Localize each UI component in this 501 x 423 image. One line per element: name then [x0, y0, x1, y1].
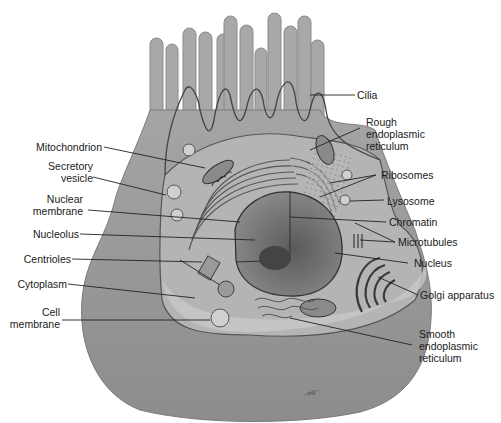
label-chromatin: Chromatin	[389, 216, 437, 228]
cell-diagram: ~sig~ Mitochondrion Secretory vesicle Nu…	[0, 0, 501, 423]
label-microtubules: Microtubules	[398, 236, 458, 248]
label-text: Golgi apparatus	[420, 289, 494, 301]
label-text: Mitochondrion	[36, 141, 102, 153]
nucleolus	[259, 246, 291, 270]
label-text: Ribosomes	[381, 169, 434, 181]
label-cell-membrane: Cell membrane	[10, 306, 60, 330]
label-text: Cytoplasm	[17, 278, 67, 290]
label-text: Nucleolus	[33, 228, 79, 240]
label-text: Secretory	[48, 160, 93, 172]
label-smooth-er: Smooth endoplasmic reticulum	[419, 328, 478, 364]
label-text: Cilia	[357, 89, 377, 101]
label-mitochondrion: Mitochondrion	[36, 141, 102, 153]
label-text: Lysosome	[387, 195, 434, 207]
label-rough-er: Rough endoplasmic reticulum	[366, 116, 425, 152]
label-text: vesicle	[48, 172, 93, 184]
label-text: reticulum	[366, 140, 425, 152]
label-text: Nuclear	[33, 193, 83, 205]
label-text: Cell	[10, 306, 60, 318]
label-centrioles: Centrioles	[24, 253, 71, 265]
label-nucleus: Nucleus	[414, 257, 452, 269]
label-cytoplasm: Cytoplasm	[17, 278, 67, 290]
label-cilia: Cilia	[357, 89, 377, 101]
label-text: Smooth	[419, 328, 478, 340]
label-text: endoplasmic	[419, 340, 478, 352]
label-nuclear-membrane: Nuclear membrane	[33, 193, 83, 217]
label-text: reticulum	[419, 352, 478, 364]
label-text: Rough	[366, 116, 425, 128]
lysosome	[340, 195, 350, 205]
secretory-vesicle	[167, 185, 181, 199]
label-text: Chromatin	[389, 216, 437, 228]
label-lysosome: Lysosome	[387, 195, 434, 207]
label-text: membrane	[33, 205, 83, 217]
label-text: Nucleus	[414, 257, 452, 269]
label-secretory-vesicle: Secretory vesicle	[48, 160, 93, 184]
label-text: endoplasmic	[366, 128, 425, 140]
nucleus	[235, 192, 342, 296]
label-nucleolus: Nucleolus	[33, 228, 79, 240]
label-ribosomes: Ribosomes	[381, 169, 434, 181]
label-text: membrane	[10, 318, 60, 330]
label-golgi-apparatus: Golgi apparatus	[420, 289, 494, 301]
label-text: Centrioles	[24, 253, 71, 265]
label-text: Microtubules	[398, 236, 458, 248]
